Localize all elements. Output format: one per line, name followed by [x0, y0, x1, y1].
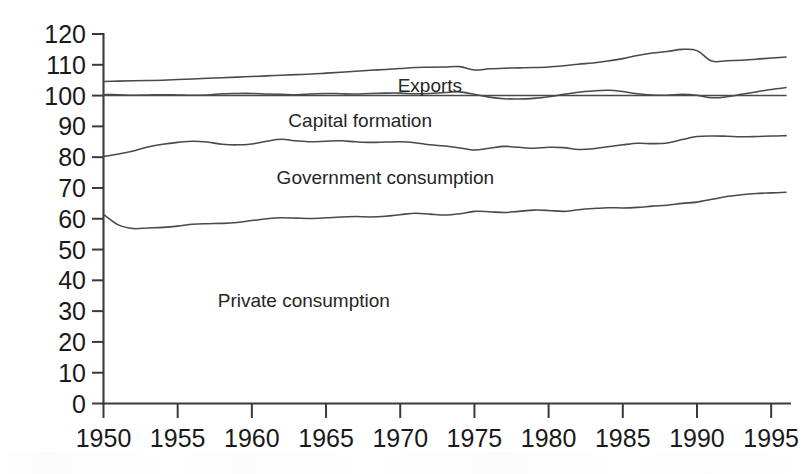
x-tick-label-1995: 1995 — [743, 424, 799, 452]
y-axis-labels: 0102030405060708090100110120 — [44, 20, 86, 418]
y-tick-label-80: 80 — [58, 143, 86, 171]
x-axis-labels: 1950195519601965197019751980198519901995 — [76, 424, 799, 452]
series-line-4 — [104, 192, 787, 228]
x-tick-label-1970: 1970 — [372, 424, 428, 452]
y-tick-label-70: 70 — [58, 174, 86, 202]
series-line-3 — [104, 136, 787, 157]
series-annotations: ExportsCapital formationGovernment consu… — [218, 75, 494, 312]
x-tick-label-1975: 1975 — [447, 424, 503, 452]
y-tick-label-90: 90 — [58, 112, 86, 140]
annotation-label-0: Exports — [398, 75, 462, 96]
annotation-label-2: Government consumption — [277, 167, 495, 188]
y-tick-label-30: 30 — [58, 297, 86, 325]
expenditure-shares-line-chart: 0102030405060708090100110120 19501955196… — [0, 0, 804, 474]
y-tick-label-50: 50 — [58, 236, 86, 264]
y-tick-label-0: 0 — [72, 390, 86, 418]
x-axis-ticks — [104, 404, 772, 419]
y-tick-label-120: 120 — [44, 20, 86, 48]
x-tick-label-1985: 1985 — [595, 424, 651, 452]
y-tick-label-20: 20 — [58, 328, 86, 356]
y-tick-label-100: 100 — [44, 82, 86, 110]
y-tick-label-60: 60 — [58, 205, 86, 233]
y-tick-label-110: 110 — [46, 51, 86, 79]
x-tick-label-1960: 1960 — [224, 424, 280, 452]
x-tick-label-1955: 1955 — [150, 424, 206, 452]
x-tick-label-1980: 1980 — [521, 424, 577, 452]
y-tick-label-40: 40 — [58, 266, 86, 294]
x-tick-label-1965: 1965 — [298, 424, 354, 452]
annotation-label-1: Capital formation — [288, 110, 432, 131]
annotation-label-3: Private consumption — [218, 290, 390, 311]
y-axis-ticks — [92, 34, 104, 404]
x-tick-label-1950: 1950 — [76, 424, 132, 452]
x-tick-label-1990: 1990 — [669, 424, 725, 452]
chart-container: 0102030405060708090100110120 19501955196… — [0, 0, 804, 474]
y-tick-label-10: 10 — [58, 359, 86, 387]
